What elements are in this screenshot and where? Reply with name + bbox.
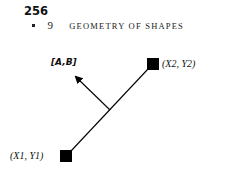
endpoint1-label: (X1, Y1) bbox=[10, 150, 43, 161]
line-normal-figure bbox=[0, 0, 228, 175]
normal-vector-label: [A,B] bbox=[51, 57, 77, 67]
endpoint2-label: (X2, Y2) bbox=[162, 58, 195, 69]
endpoint2-marker bbox=[147, 58, 159, 70]
endpoint1-marker bbox=[60, 150, 72, 162]
normal-vector-arrow bbox=[76, 77, 110, 110]
